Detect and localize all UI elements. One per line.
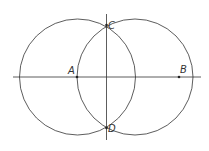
- label-c: C: [108, 20, 115, 31]
- construction-diagram: A B C D: [0, 0, 209, 151]
- label-b: B: [180, 64, 187, 75]
- label-d: D: [108, 123, 116, 134]
- point-a: [76, 76, 79, 79]
- label-a: A: [67, 65, 75, 76]
- point-b: [178, 76, 181, 79]
